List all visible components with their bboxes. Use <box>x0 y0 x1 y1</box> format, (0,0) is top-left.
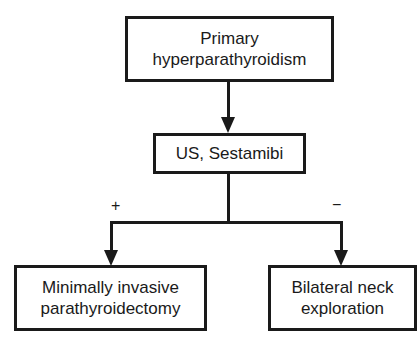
edge-label-negative: − <box>332 197 341 213</box>
edge-imaging-to-bne <box>340 221 343 253</box>
edge-primary-to-imaging <box>227 82 230 120</box>
node-text-line: hyperparathyroidism <box>152 49 306 70</box>
node-text-line: exploration <box>301 298 384 319</box>
edge-branch-horizontal <box>110 221 343 224</box>
edge-label-positive: + <box>111 198 120 214</box>
node-primary-hyperparathyroidism: Primary hyperparathyroidism <box>125 16 334 82</box>
node-text-line: Bilateral neck <box>291 277 393 298</box>
edge-imaging-to-mip <box>110 221 113 253</box>
node-text-line: US, Sestamibi <box>176 143 284 164</box>
node-us-sestamibi: US, Sestamibi <box>153 133 306 174</box>
arrowhead-down-icon <box>334 250 348 266</box>
node-minimally-invasive-parathyroidectomy: Minimally invasive parathyroidectomy <box>14 265 207 331</box>
arrowhead-down-icon <box>104 250 118 266</box>
node-text-line: Primary <box>200 28 259 49</box>
node-text-line: Minimally invasive <box>42 277 179 298</box>
node-text-line: parathyroidectomy <box>41 298 181 319</box>
node-bilateral-neck-exploration: Bilateral neck exploration <box>268 265 417 331</box>
arrowhead-down-icon <box>221 117 235 133</box>
edge-imaging-stem <box>227 174 230 223</box>
